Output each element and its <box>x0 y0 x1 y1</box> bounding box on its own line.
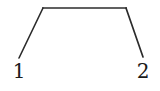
line-diagram-figure: 1 2 <box>0 0 160 91</box>
left-endpoint-label: 1 <box>10 61 28 81</box>
right-endpoint-label: 2 <box>134 61 152 81</box>
